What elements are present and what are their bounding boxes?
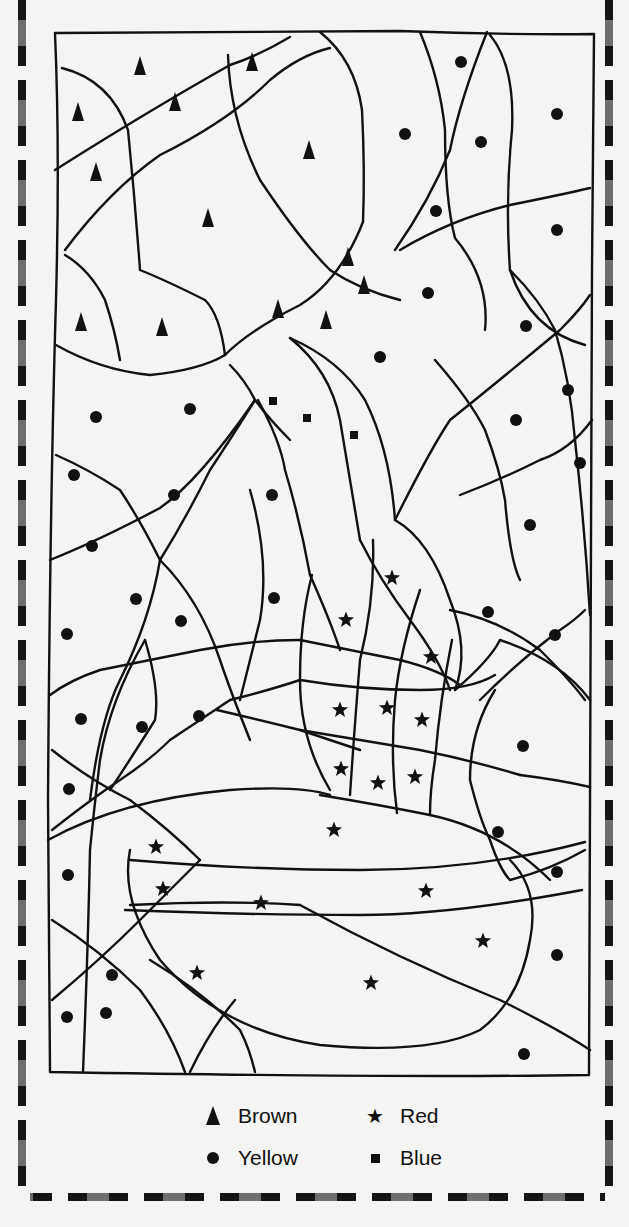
triangle-icon — [358, 275, 370, 294]
circle-icon — [202, 1147, 224, 1169]
circle-icon — [551, 108, 563, 120]
circle-icon — [517, 740, 529, 752]
star-icon — [418, 883, 434, 898]
square-icon — [303, 414, 311, 422]
star-icon — [363, 975, 379, 990]
star-icon — [407, 769, 423, 784]
triangle-icon — [156, 317, 168, 336]
circle-icon — [549, 629, 561, 641]
star-icon — [379, 700, 395, 715]
circle-icon — [266, 489, 278, 501]
square-icon — [269, 397, 277, 405]
circle-icon — [193, 710, 205, 722]
circle-icon — [492, 826, 504, 838]
star-icon — [475, 933, 491, 948]
star-icon — [332, 702, 348, 717]
triangle-icon — [72, 102, 84, 121]
circle-icon — [551, 866, 563, 878]
legend-item-blue: Blue — [364, 1146, 442, 1170]
square-icon — [364, 1147, 386, 1169]
circle-icon — [475, 136, 487, 148]
legend-label: Red — [400, 1104, 439, 1128]
legend-item-yellow: Yellow — [202, 1146, 298, 1170]
legend-label: Brown — [238, 1104, 298, 1128]
map-boundary-lines — [48, 31, 594, 1076]
circle-icon — [106, 969, 118, 981]
star-icon — [370, 775, 386, 790]
star-icon — [414, 712, 430, 727]
star-icon — [333, 761, 349, 776]
circle-icon — [374, 351, 386, 363]
circle-icon — [510, 414, 522, 426]
circle-icon — [61, 1011, 73, 1023]
star-icon — [338, 612, 354, 627]
circle-icon — [61, 628, 73, 640]
circle-icon — [562, 384, 574, 396]
triangle-icon — [202, 1105, 224, 1127]
circle-icon — [175, 615, 187, 627]
circle-icon — [574, 457, 586, 469]
brown-markers — [72, 52, 370, 336]
circle-icon — [184, 403, 196, 415]
legend-item-brown: Brown — [202, 1104, 298, 1128]
star-icon — [155, 881, 171, 896]
territory-map — [0, 0, 629, 1227]
triangle-icon — [342, 247, 354, 266]
circle-icon — [551, 949, 563, 961]
circle-icon — [520, 320, 532, 332]
circle-icon — [430, 205, 442, 217]
legend-label: Yellow — [238, 1146, 298, 1170]
circle-icon — [482, 606, 494, 618]
circle-icon — [136, 721, 148, 733]
circle-icon — [455, 56, 467, 68]
triangle-icon — [202, 208, 214, 227]
dashed-page-border — [22, 0, 609, 1197]
circle-icon — [399, 128, 411, 140]
triangle-icon — [75, 312, 87, 331]
circle-icon — [422, 287, 434, 299]
circle-icon — [551, 224, 563, 236]
star-icon: ★ — [364, 1105, 386, 1127]
circle-icon — [518, 1048, 530, 1060]
circle-icon — [63, 783, 75, 795]
star-icon — [384, 570, 400, 585]
triangle-icon — [303, 140, 315, 159]
triangle-icon — [134, 56, 146, 75]
circle-icon — [68, 469, 80, 481]
circle-icon — [86, 540, 98, 552]
legend-label: Blue — [400, 1146, 442, 1170]
circle-icon — [62, 869, 74, 881]
circle-icon — [130, 593, 142, 605]
star-icon — [148, 839, 164, 854]
circle-icon — [75, 713, 87, 725]
star-icon — [253, 895, 269, 910]
square-icon — [350, 431, 358, 439]
map-legend: Brown ★ Red Yellow Blue — [200, 1100, 470, 1180]
star-icon — [326, 822, 342, 837]
star-icon — [189, 965, 205, 980]
triangle-icon — [320, 310, 332, 329]
red-markers — [148, 570, 491, 990]
triangle-icon — [90, 162, 102, 181]
circle-icon — [100, 1007, 112, 1019]
circle-icon — [168, 489, 180, 501]
circle-icon — [268, 592, 280, 604]
circle-icon — [90, 411, 102, 423]
legend-item-red: ★ Red — [364, 1104, 439, 1128]
circle-icon — [524, 519, 536, 531]
triangle-icon — [272, 299, 284, 318]
